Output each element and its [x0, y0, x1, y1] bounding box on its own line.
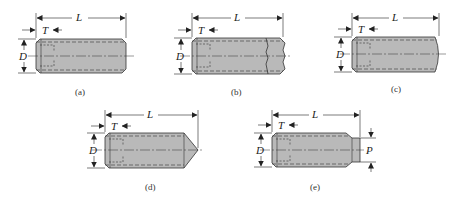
length-label-b: L: [233, 11, 240, 23]
caption-e: (e): [310, 182, 320, 192]
panel-a: L T D (a): [18, 11, 134, 97]
thread-label-a: T: [42, 24, 49, 36]
caption-a: (a): [75, 87, 85, 97]
panel-d: L T D (d): [87, 108, 204, 192]
panel-e: L T D P (e): [254, 108, 376, 192]
caption-d: (d): [145, 182, 156, 192]
diameter-label-d: D: [88, 144, 97, 156]
point-diameter-label-e: P: [365, 144, 373, 156]
diameter-label-e: D: [255, 144, 264, 156]
thread-label-b: T: [198, 24, 205, 36]
thread-label-e: T: [278, 119, 285, 131]
panel-b: L T D (b): [174, 11, 292, 97]
screw-body-c: [352, 37, 439, 72]
diameter-label-a: D: [18, 50, 27, 62]
caption-b: (b): [231, 87, 242, 97]
caption-c: (c): [391, 84, 401, 94]
thread-label-c: T: [358, 23, 365, 35]
length-label-c: L: [391, 11, 398, 23]
set-screw-diagram: L T D (a) L T D (b): [0, 0, 468, 203]
panel-c: L T D (c): [334, 11, 448, 94]
diameter-label-b: D: [175, 50, 184, 62]
thread-label-d: T: [111, 120, 118, 132]
length-label-a: L: [75, 11, 82, 23]
length-label-d: L: [146, 108, 153, 120]
length-label-e: L: [311, 108, 318, 120]
diameter-label-c: D: [335, 48, 344, 60]
